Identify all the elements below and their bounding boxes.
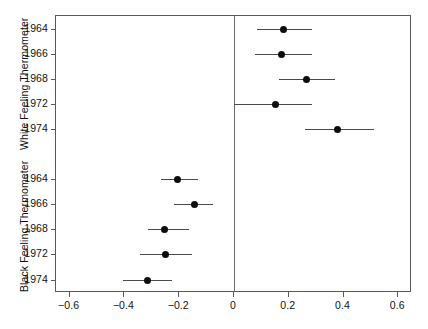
y-tick-mark — [51, 204, 56, 205]
point-estimate-marker — [278, 51, 285, 58]
estimate-row — [56, 204, 410, 205]
y-tick-mark — [51, 54, 56, 55]
estimate-row — [56, 79, 410, 80]
estimate-row — [56, 54, 410, 55]
x-tick-mark — [69, 292, 70, 297]
estimate-row — [56, 129, 410, 130]
point-estimate-marker — [272, 101, 279, 108]
y-tick-mark — [51, 280, 56, 281]
x-tick-label: 0 — [230, 299, 236, 311]
x-tick-label: −0.4 — [113, 299, 134, 311]
estimate-row — [56, 229, 410, 230]
y-tick-mark — [51, 104, 56, 105]
x-tick-label: −0.2 — [168, 299, 189, 311]
y-tick-mark — [51, 79, 56, 80]
point-estimate-marker — [334, 126, 341, 133]
x-tick-label: 0.6 — [390, 299, 405, 311]
point-estimate-marker — [162, 251, 169, 258]
zero-reference-line — [234, 16, 235, 291]
y-tick-mark — [51, 129, 56, 130]
x-tick-label: 0.4 — [335, 299, 350, 311]
point-estimate-marker — [280, 26, 287, 33]
x-tick-label: 0.2 — [280, 299, 295, 311]
x-tick-mark — [123, 292, 124, 297]
x-axis: −0.6−0.4−0.200.20.40.6 — [55, 292, 411, 316]
x-tick-mark — [233, 292, 234, 297]
point-estimate-marker — [303, 76, 310, 83]
estimate-row — [56, 29, 410, 30]
estimate-row — [56, 104, 410, 105]
estimate-row — [56, 179, 410, 180]
confidence-interval-bar — [148, 229, 189, 230]
y-tick-mark — [51, 229, 56, 230]
x-tick-mark — [343, 292, 344, 297]
point-estimate-marker — [174, 176, 181, 183]
x-tick-mark — [397, 292, 398, 297]
x-tick-label: −0.6 — [58, 299, 79, 311]
x-tick-mark — [178, 292, 179, 297]
y-tick-mark — [51, 29, 56, 30]
y-tick-mark — [51, 254, 56, 255]
panel-title: White Feeling Thermometer — [18, 18, 30, 150]
estimate-row — [56, 254, 410, 255]
coefficient-plot-figure: −0.6−0.4−0.200.20.40.6 19641966196819721… — [0, 0, 428, 329]
point-estimate-marker — [191, 201, 198, 208]
plot-area — [55, 15, 411, 292]
point-estimate-marker — [161, 226, 168, 233]
panel-title: Black Feeling Thermometer — [18, 161, 30, 292]
x-tick-mark — [288, 292, 289, 297]
y-tick-mark — [51, 179, 56, 180]
point-estimate-marker — [144, 277, 151, 284]
estimate-row — [56, 280, 410, 281]
